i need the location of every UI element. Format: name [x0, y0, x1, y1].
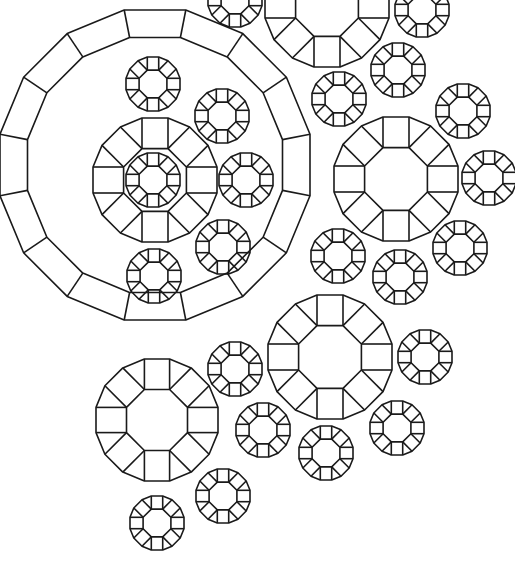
- medium-ring-2: [334, 117, 458, 241]
- small-ring-3: [219, 153, 273, 207]
- small-ring-1: [126, 57, 180, 111]
- small-ring-10: [436, 84, 490, 138]
- small-ring-17: [236, 403, 290, 457]
- medium-ring-4: [96, 359, 218, 481]
- small-ring-9: [312, 72, 366, 126]
- small-ring-0: [126, 153, 180, 207]
- small-ring-20: [196, 469, 250, 523]
- small-ring-4: [196, 220, 250, 274]
- octagon-pattern-artwork: [0, 0, 515, 566]
- small-ring-19: [370, 401, 424, 455]
- medium-ring-3: [268, 295, 392, 419]
- medium-ring-1: [265, 0, 389, 67]
- small-ring-5: [127, 249, 181, 303]
- small-ring-7: [395, 0, 449, 37]
- small-ring-16: [398, 330, 452, 384]
- small-ring-2: [195, 89, 249, 143]
- small-ring-8: [371, 43, 425, 97]
- medium-ring-0: [93, 118, 217, 242]
- small-ring-11: [462, 151, 515, 205]
- small-ring-14: [311, 229, 365, 283]
- small-ring-21: [130, 496, 184, 550]
- small-ring-13: [373, 250, 427, 304]
- small-ring-15: [208, 342, 262, 396]
- small-ring-18: [299, 426, 353, 480]
- pattern-canvas: [0, 0, 515, 566]
- small-ring-12: [433, 221, 487, 275]
